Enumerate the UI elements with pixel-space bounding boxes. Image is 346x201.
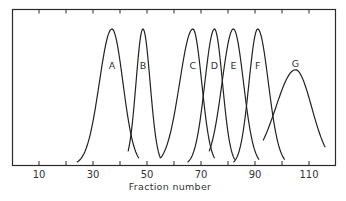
plot-frame <box>13 10 336 166</box>
x-tick-label: 90 <box>249 169 262 180</box>
peak-curve-e <box>209 29 259 160</box>
peak-label-d: D <box>211 60 218 71</box>
x-tick-label: 50 <box>141 169 154 180</box>
peak-label-e: E <box>230 60 236 71</box>
peak-label-g: G <box>292 58 299 69</box>
x-tick-label: 110 <box>299 169 318 180</box>
peak-curve-d <box>188 29 235 162</box>
x-axis-tick-labels: 1030507090110 <box>33 169 319 180</box>
peak-curve-f <box>233 29 284 162</box>
peak-curve-b <box>128 29 160 158</box>
peak-label-b: B <box>140 60 147 71</box>
elution-profile-chart: ABCDEFG 1030507090110 Fraction number <box>0 0 346 201</box>
peak-label-c: C <box>190 60 197 71</box>
peak-curves <box>77 29 325 162</box>
peak-label-f: F <box>255 60 260 71</box>
peak-label-a: A <box>109 60 116 71</box>
x-axis-label: Fraction number <box>129 181 212 192</box>
x-tick-label: 10 <box>33 169 46 180</box>
x-tick-label: 30 <box>87 169 100 180</box>
peak-curve-c <box>161 29 215 158</box>
x-tick-label: 70 <box>195 169 208 180</box>
